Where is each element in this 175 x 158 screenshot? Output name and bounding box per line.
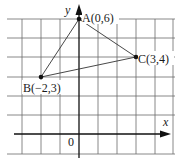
coordinate-diagram: x y 0 A(0,6) B(−2,3) C(3,4) bbox=[0, 0, 175, 158]
point-a bbox=[77, 17, 82, 22]
point-b bbox=[39, 75, 44, 80]
point-c-label: C(3,4) bbox=[138, 52, 169, 66]
triangle-abc bbox=[41, 19, 136, 77]
y-axis bbox=[76, 4, 83, 158]
x-axis-arrow-icon bbox=[160, 131, 171, 138]
y-axis-label: y bbox=[64, 3, 71, 17]
x-axis bbox=[14, 131, 171, 138]
point-a-label: A(0,6) bbox=[82, 11, 114, 25]
x-axis-label: x bbox=[162, 115, 169, 129]
point-b-label: B(−2,3) bbox=[23, 81, 61, 95]
origin-label: 0 bbox=[68, 135, 74, 149]
